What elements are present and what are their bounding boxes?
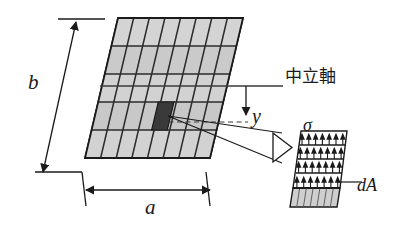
y-distance-label: y [252, 106, 261, 126]
a-tick-left [82, 172, 86, 206]
figure-canvas: b a y σ dA 中立軸 [0, 0, 400, 229]
stress-distribution-element [290, 131, 362, 207]
stress-symbol-label: σ [303, 116, 312, 134]
width-dimension-label: a [145, 197, 156, 218]
stress-arrow-row-4 [293, 176, 341, 188]
diagram-vector-layer [0, 0, 400, 229]
neutral-axis-label: 中立軸 [285, 68, 336, 85]
stress-arrow-row-3 [296, 161, 343, 173]
height-dimension-label: b [28, 72, 39, 93]
b-dimension-arrow [43, 22, 76, 172]
magnifier-arrowhead [273, 133, 292, 162]
stress-arrow-row-2 [297, 147, 344, 159]
a-tick-right [206, 172, 210, 206]
area-element-label: dA [357, 176, 377, 194]
